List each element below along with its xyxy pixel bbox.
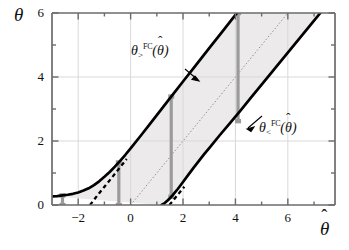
figure-container: θ ˆ θ θ>FC(ˆθ) θ<FC(ˆθ) −202460246: [0, 0, 349, 250]
lower-label-theta: θ: [259, 120, 266, 135]
lower-curve-label: θ<FC(ˆθ): [259, 119, 297, 137]
y-tick-label: 0: [18, 197, 44, 213]
upper-label-sub: >: [138, 50, 143, 60]
y-tick-label: 2: [18, 133, 44, 149]
x-tick-label: 6: [272, 210, 304, 226]
lower-label-paren-close: ): [292, 120, 297, 135]
x-axis-label-hat: ˆ: [321, 207, 327, 225]
upper-label-sup: FC: [143, 42, 152, 51]
lower-label-arg-hat: ˆ: [286, 111, 290, 124]
upper-label-paren-close: ): [164, 43, 169, 58]
upper-label-arg-hat: ˆ: [158, 34, 162, 47]
x-tick-label: 0: [115, 210, 147, 226]
upper-label-theta: θ: [131, 43, 138, 58]
x-tick-label: 2: [167, 210, 199, 226]
y-tick-label: 4: [18, 69, 44, 85]
x-tick-label: 4: [219, 210, 251, 226]
x-tick-label: −2: [62, 210, 94, 226]
lower-label-sub: <: [266, 127, 271, 137]
upper-curve-label: θ>FC(ˆθ): [131, 42, 169, 60]
x-axis-label: ˆ θ: [320, 218, 329, 240]
lower-label-sup: FC: [271, 119, 280, 128]
y-tick-label: 6: [18, 5, 44, 21]
